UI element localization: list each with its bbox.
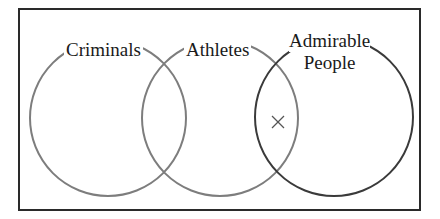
criminals-circle — [30, 40, 186, 196]
athletes-label: Athletes — [184, 39, 251, 61]
venn-diagram — [0, 0, 440, 219]
x-marker-icon — [272, 116, 284, 128]
admirable-label-line1: Admirable — [289, 30, 370, 52]
admirable-people-label: Admirable People — [287, 30, 372, 74]
criminals-label: Criminals — [64, 39, 143, 61]
admirable-label-line2: People — [301, 52, 358, 74]
